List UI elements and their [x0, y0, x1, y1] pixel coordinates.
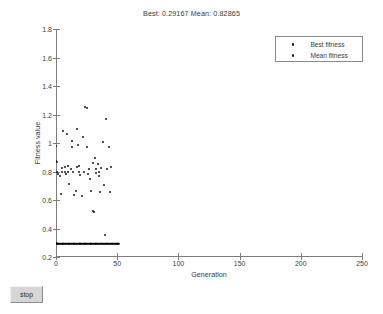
mean-fitness-point — [86, 146, 88, 148]
mean-fitness-point — [66, 133, 68, 135]
y-tick-label: 1.4 — [42, 83, 52, 90]
mean-fitness-point — [98, 171, 100, 173]
mean-fitness-point — [93, 211, 95, 213]
mean-fitness-point — [89, 178, 91, 180]
x-tick-label: 100 — [173, 260, 185, 267]
mean-fitness-point — [110, 166, 112, 168]
mean-fitness-point — [77, 144, 79, 146]
mean-fitness-point — [106, 168, 108, 170]
mean-fitness-point — [97, 163, 99, 165]
legend-label: Mean fitness — [310, 52, 347, 59]
mean-fitness-point — [68, 183, 70, 185]
mean-fitness-point — [109, 191, 111, 193]
mean-fitness-point — [102, 141, 104, 143]
y-tick-label: 1.2 — [42, 111, 52, 118]
mean-fitness-point — [59, 175, 61, 177]
mean-fitness-point — [76, 128, 78, 130]
mean-fitness-point — [56, 161, 58, 163]
mean-fitness-point — [56, 145, 57, 147]
mean-fitness-point — [83, 171, 85, 173]
mean-fitness-point — [72, 171, 74, 173]
y-tick-inner — [57, 257, 60, 258]
mean-fitness-point — [86, 107, 88, 109]
mean-fitness-point — [92, 162, 94, 164]
mean-fitness-point — [67, 165, 69, 167]
y-tick-label: 1.6 — [42, 54, 52, 61]
x-axis-title: Generation — [56, 270, 362, 279]
mean-fitness-point — [81, 195, 83, 197]
mean-fitness-point — [78, 171, 80, 173]
legend-item-mean-fitness: Mean fitness — [276, 50, 362, 61]
mean-fitness-point — [104, 234, 106, 236]
mean-fitness-point — [71, 146, 73, 148]
mean-fitness-point — [108, 146, 110, 148]
x-tick-label: 250 — [356, 260, 368, 267]
mean-fitness-point — [103, 184, 105, 186]
legend: Best fitness Mean fitness — [275, 36, 363, 62]
mean-fitness-point — [64, 166, 66, 168]
y-axis-title: Fitness value — [33, 122, 42, 164]
stop-button[interactable]: stop — [10, 286, 43, 303]
mean-fitness-point — [94, 157, 96, 159]
mean-fitness-point — [100, 167, 102, 169]
mean-fitness-point — [87, 173, 89, 175]
mean-fitness-point — [71, 140, 73, 142]
legend-item-best-fitness: Best fitness — [276, 39, 362, 50]
legend-marker-icon — [292, 54, 294, 56]
mean-fitness-point — [67, 171, 69, 173]
mean-fitness-point — [73, 194, 75, 196]
mean-fitness-point — [82, 136, 84, 138]
mean-fitness-point — [61, 167, 63, 169]
ga-plot-figure: Best: 0.29167 Mean: 0.82865 0.20.40.60.8… — [0, 0, 383, 314]
mean-fitness-point — [95, 168, 97, 170]
x-tick-label: 50 — [113, 260, 121, 267]
scatter-data-layer — [56, 29, 362, 257]
mean-fitness-point — [57, 173, 59, 175]
legend-label: Best fitness — [310, 41, 344, 48]
y-tick-label: 1 — [48, 140, 52, 147]
mean-fitness-point — [105, 118, 107, 120]
mean-fitness-point — [99, 191, 101, 193]
mean-fitness-point — [88, 168, 90, 170]
mean-fitness-point — [62, 130, 64, 132]
x-tick-label: 200 — [295, 260, 307, 267]
mean-fitness-point — [90, 190, 92, 192]
y-tick-label: 1.8 — [42, 26, 52, 33]
mean-fitness-point — [65, 173, 67, 175]
y-tick-label: 0.8 — [42, 168, 52, 175]
x-tick-label: 0 — [54, 260, 58, 267]
mean-fitness-point — [75, 190, 77, 192]
y-tick-label: 0.4 — [42, 225, 52, 232]
page-title: Best: 0.29167 Mean: 0.82865 — [0, 9, 383, 18]
x-tick-label: 150 — [234, 260, 246, 267]
y-tick-label: 0.2 — [42, 254, 52, 261]
mean-fitness-point — [95, 172, 97, 174]
mean-fitness-point — [78, 165, 80, 167]
mean-fitness-point — [60, 193, 62, 195]
plot-axes: 0.20.40.60.811.21.41.61.8 05010015020025… — [56, 29, 362, 257]
x-tick-inner — [362, 253, 363, 256]
legend-marker-icon — [292, 43, 294, 45]
mean-fitness-point — [98, 175, 100, 177]
y-tick-label: 0.6 — [42, 197, 52, 204]
best-fitness-point — [117, 243, 119, 245]
mean-fitness-point — [79, 174, 81, 176]
